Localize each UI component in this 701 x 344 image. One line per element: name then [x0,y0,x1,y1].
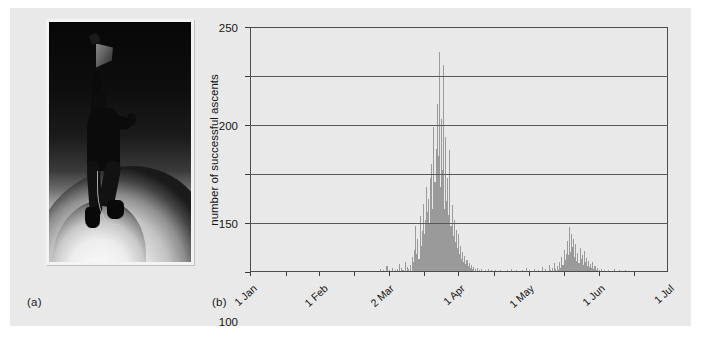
histogram-bar [507,270,508,271]
x-tick-mark: 2 Mar [319,272,320,276]
summit-flag [96,44,113,68]
histogram-bar [383,270,384,271]
histogram-bar [392,268,393,271]
histogram-bar [599,270,600,271]
x-tick-mark: 1 Sep [529,272,530,276]
panel-label-b: (b) [212,296,227,308]
climber-left-boot [85,207,101,229]
summit-photograph [46,19,194,265]
histogram-bar [399,264,400,271]
histogram-bar [408,269,409,271]
x-tick-mark: 1 Aug [494,272,495,276]
histogram-bar [538,270,539,271]
histogram-bar [395,270,396,271]
y-tick-mark: 50 [245,223,250,224]
histogram-bar [542,267,543,271]
y-tick-label: 200 [219,120,238,132]
panel-label-a: (a) [27,296,42,308]
gridline [250,223,668,224]
histogram-bar [477,268,478,271]
histogram-bar [619,270,620,271]
climbing-rope [97,171,119,225]
histogram-bar [402,270,403,271]
histogram-bar [481,269,482,271]
y-tick-mark: 250 [245,27,250,28]
histogram-bar [397,269,398,271]
x-tick-mark: 1 May [389,272,390,276]
histogram-bar [625,270,626,271]
histogram-bar [526,268,527,271]
gridline [250,125,668,126]
climber-silhouette [49,22,191,262]
x-tick-mark: 1 Jul [458,272,459,276]
y-tick-mark: 100 [245,174,250,175]
histogram-bar [608,270,609,271]
histogram-bar [522,270,523,271]
histogram-bar [405,262,406,271]
histogram-bar [473,267,474,271]
y-tick-mark: 200 [245,76,250,77]
histogram-bar [614,269,615,271]
x-tick-mark: 1 Feb [286,272,287,276]
histogram-bar [550,270,551,271]
gridline [250,76,668,77]
histogram-bar [597,268,598,271]
photograph-image [49,22,191,262]
histogram-bar [555,269,556,271]
histogram-bar [500,270,501,271]
x-tick-mark: 1 Oct [564,272,565,276]
histogram-bar [604,270,605,271]
histogram-bar [601,269,602,271]
histogram-bar [485,270,486,271]
histogram-bar [511,269,512,271]
climber-hand [127,113,136,126]
histogram-bar [380,269,381,271]
x-tick-mark: 1 Jun [424,272,425,276]
y-tick-mark: 150 [245,125,250,126]
x-tick-mark: 1 Jan [250,272,251,276]
gridline [250,174,668,175]
histogram-bar [552,268,553,271]
y-axis-title-text: number of successful ascents [208,74,220,226]
histogram-bar [475,269,476,271]
histogram-bar [495,270,496,271]
y-tick-label: 250 [219,22,238,34]
x-tick-mark: 1 Dec [634,272,635,276]
histogram-bar [529,270,530,271]
figure-root: (a) (b) number of successful ascents 050… [0,0,701,344]
x-tick-mark: 1 Apr [354,272,355,276]
histogram-bar [534,269,535,271]
x-tick-mark: 1 Nov [599,272,600,276]
y-tick-label: 100 [219,316,238,328]
histogram-bar [410,265,411,271]
histogram-bar [488,269,489,271]
histogram-bar [479,270,480,271]
histogram-bar [545,269,546,271]
y-axis-title: number of successful ascents [206,27,222,272]
histogram-bar [389,270,390,271]
histogram-bar [491,270,492,271]
y-tick-label: 150 [219,218,238,230]
bar-series [251,28,667,271]
histogram-bar [386,266,387,271]
ascents-histogram: 050100150200250 1 Jan1 Feb2 Mar1 Apr1 Ma… [250,27,668,272]
histogram-bar [516,270,517,271]
